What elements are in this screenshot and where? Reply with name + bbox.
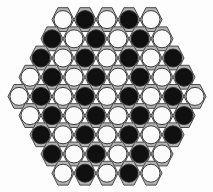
white-piece-icon[interactable] <box>54 49 72 67</box>
white-piece-icon[interactable] <box>142 126 160 144</box>
black-piece-icon[interactable] <box>43 145 61 163</box>
black-piece-icon[interactable] <box>32 126 50 144</box>
white-piece-icon[interactable] <box>153 30 171 48</box>
white-piece-icon[interactable] <box>21 107 39 125</box>
black-piece-icon[interactable] <box>120 126 138 144</box>
white-piece-icon[interactable] <box>109 68 127 86</box>
black-piece-icon[interactable] <box>43 30 61 48</box>
black-piece-icon[interactable] <box>43 107 61 125</box>
white-piece-icon[interactable] <box>54 87 72 105</box>
white-piece-icon[interactable] <box>98 126 116 144</box>
hexagonal-game-board[interactable] <box>0 0 213 192</box>
black-piece-icon[interactable] <box>175 68 193 86</box>
black-piece-icon[interactable] <box>76 87 94 105</box>
white-piece-icon[interactable] <box>54 126 72 144</box>
white-piece-icon[interactable] <box>142 49 160 67</box>
board-canvas <box>0 0 213 192</box>
black-piece-icon[interactable] <box>131 68 149 86</box>
black-piece-icon[interactable] <box>87 145 105 163</box>
white-piece-icon[interactable] <box>186 87 204 105</box>
black-piece-icon[interactable] <box>76 164 94 182</box>
black-piece-icon[interactable] <box>120 49 138 67</box>
black-piece-icon[interactable] <box>131 30 149 48</box>
black-piece-icon[interactable] <box>43 68 61 86</box>
black-piece-icon[interactable] <box>120 11 138 29</box>
white-piece-icon[interactable] <box>153 68 171 86</box>
black-piece-icon[interactable] <box>87 107 105 125</box>
black-piece-icon[interactable] <box>164 126 182 144</box>
white-piece-icon[interactable] <box>21 68 39 86</box>
board-row <box>52 161 162 185</box>
black-piece-icon[interactable] <box>87 68 105 86</box>
white-piece-icon[interactable] <box>98 87 116 105</box>
white-piece-icon[interactable] <box>142 164 160 182</box>
black-piece-icon[interactable] <box>120 164 138 182</box>
white-piece-icon[interactable] <box>54 11 72 29</box>
white-piece-icon[interactable] <box>65 145 83 163</box>
white-piece-icon[interactable] <box>65 68 83 86</box>
black-piece-icon[interactable] <box>120 87 138 105</box>
white-piece-icon[interactable] <box>109 145 127 163</box>
black-piece-icon[interactable] <box>32 87 50 105</box>
white-piece-icon[interactable] <box>98 164 116 182</box>
white-piece-icon[interactable] <box>65 30 83 48</box>
white-piece-icon[interactable] <box>109 107 127 125</box>
white-piece-icon[interactable] <box>98 49 116 67</box>
black-piece-icon[interactable] <box>164 87 182 105</box>
black-piece-icon[interactable] <box>87 30 105 48</box>
black-piece-icon[interactable] <box>76 126 94 144</box>
black-piece-icon[interactable] <box>76 49 94 67</box>
white-piece-icon[interactable] <box>153 107 171 125</box>
white-piece-icon[interactable] <box>65 107 83 125</box>
white-piece-icon[interactable] <box>142 87 160 105</box>
board-row <box>8 85 206 109</box>
black-piece-icon[interactable] <box>76 11 94 29</box>
black-piece-icon[interactable] <box>164 49 182 67</box>
white-piece-icon[interactable] <box>54 164 72 182</box>
black-piece-icon[interactable] <box>175 107 193 125</box>
white-piece-icon[interactable] <box>109 30 127 48</box>
white-piece-icon[interactable] <box>142 11 160 29</box>
white-piece-icon[interactable] <box>10 87 28 105</box>
white-piece-icon[interactable] <box>98 11 116 29</box>
white-piece-icon[interactable] <box>153 145 171 163</box>
black-piece-icon[interactable] <box>131 145 149 163</box>
black-piece-icon[interactable] <box>131 107 149 125</box>
black-piece-icon[interactable] <box>32 49 50 67</box>
